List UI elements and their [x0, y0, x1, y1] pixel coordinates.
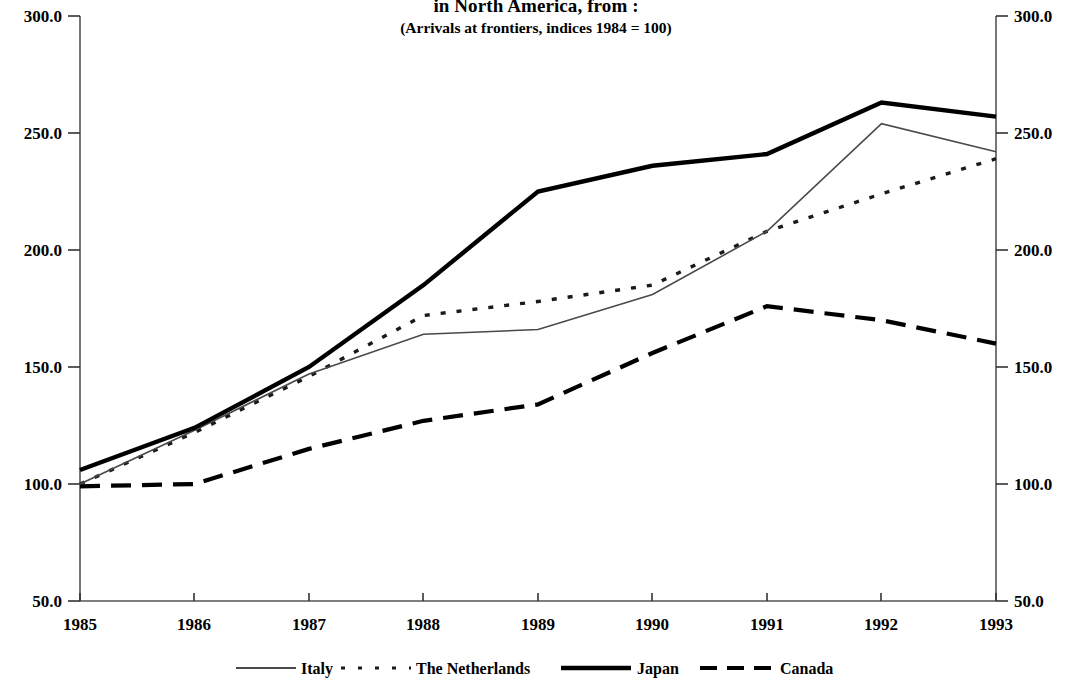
ytick-label-100: 100.0: [24, 475, 62, 494]
legend-item-japan[interactable]: Japan: [561, 660, 679, 678]
chart-container: in North America, from : (Arrivals at fr…: [0, 0, 1072, 686]
legend-label-the-netherlands: The Netherlands: [416, 660, 530, 677]
right-ytick-label-150: 150.0: [1014, 358, 1052, 377]
legend-label-canada: Canada: [780, 660, 833, 677]
ytick-label-200: 200.0: [24, 241, 62, 260]
line-chart-plot: 300.0 250.0 200.0 150.0 100.0 50.0 300.0…: [0, 0, 1072, 686]
legend-label-italy: Italy: [301, 660, 333, 678]
series-line-the-netherlands: [80, 159, 996, 484]
left-axis: 300.0 250.0 200.0 150.0 100.0 50.0: [24, 7, 80, 611]
legend-item-canada[interactable]: Canada: [700, 660, 833, 677]
right-ytick-label-200: 200.0: [1014, 241, 1052, 260]
xtick-label-1989: 1989: [521, 615, 555, 634]
xtick-label-1986: 1986: [177, 615, 211, 634]
right-ytick-label-250: 250.0: [1014, 124, 1052, 143]
xtick-label-1987: 1987: [292, 615, 327, 634]
ytick-label-50: 50.0: [32, 592, 62, 611]
xtick-label-1985: 1985: [63, 615, 97, 634]
legend-item-italy[interactable]: Italy: [236, 660, 333, 678]
right-ytick-label-300: 300.0: [1014, 7, 1052, 26]
series-line-japan: [80, 103, 996, 470]
xtick-label-1992: 1992: [864, 615, 898, 634]
series-line-italy: [80, 124, 996, 484]
right-axis: 300.0 250.0 200.0 150.0 100.0 50.0: [996, 7, 1052, 611]
series-line-canada: [80, 306, 996, 486]
xtick-label-1990: 1990: [635, 615, 669, 634]
legend-label-japan: Japan: [637, 660, 679, 678]
chart-legend: Italy The Netherlands Japan Canada: [236, 660, 833, 678]
right-ytick-label-50: 50.0: [1014, 592, 1044, 611]
ytick-label-250: 250.0: [24, 124, 62, 143]
right-ytick-label-100: 100.0: [1014, 475, 1052, 494]
legend-item-the-netherlands[interactable]: The Netherlands: [341, 660, 530, 677]
ytick-label-150: 150.0: [24, 358, 62, 377]
ytick-label-300: 300.0: [24, 7, 62, 26]
data-series-group: [80, 103, 996, 487]
xtick-label-1993: 1993: [979, 615, 1013, 634]
xtick-label-1991: 1991: [750, 615, 784, 634]
x-tick-marks: [80, 593, 996, 601]
xtick-label-1988: 1988: [406, 615, 440, 634]
x-axis: 1985 1986 1987 1988 1989 1990 1991 1992 …: [63, 593, 1013, 634]
